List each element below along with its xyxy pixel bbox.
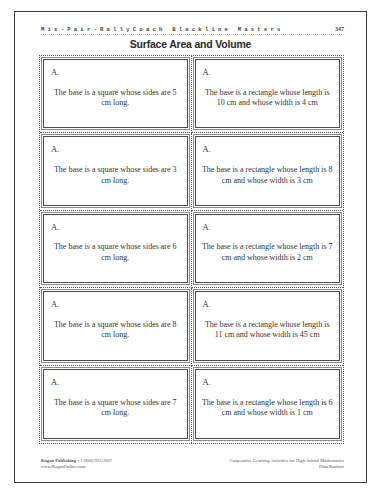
publisher-website: www.KaganOnline.com — [41, 464, 112, 470]
page-title: Surface Area and Volume — [15, 38, 366, 50]
header-divider — [41, 34, 344, 35]
card: A. The base is a square whose sides are … — [43, 136, 188, 205]
card-text: The base is a rectangle whose length is … — [202, 397, 334, 418]
card: A. The base is a rectangle whose length … — [195, 59, 341, 128]
card-cell: A. The base is a square whose sides are … — [40, 56, 192, 133]
card-text: The base is a square whose sides are 7 c… — [50, 397, 181, 418]
card-cell: A. The base is a rectangle whose length … — [192, 288, 344, 365]
card-text: The base is a square whose sides are 3 c… — [50, 165, 181, 186]
card-text: The base is a square whose sides are 5 c… — [50, 87, 181, 108]
card-cell: A. The base is a rectangle whose length … — [192, 211, 344, 288]
card: A. The base is a rectangle whose length … — [195, 214, 341, 283]
running-header: Mix-Pair-RallyCoach Blackline Masters 34… — [41, 26, 344, 38]
card: A. The base is a rectangle whose length … — [195, 291, 341, 360]
card-label: A. — [51, 222, 59, 232]
card-label: A. — [51, 299, 59, 309]
card: A. The base is a square whose sides are … — [43, 291, 188, 360]
card-label: A. — [51, 144, 59, 154]
card-label: A. — [203, 144, 211, 154]
card: A. The base is a rectangle whose length … — [195, 369, 341, 439]
publisher-phone: • 1 (800) 933-2667 — [76, 458, 112, 463]
card: A. The base is a square whose sides are … — [43, 369, 188, 439]
card-text: The base is a square whose sides are 8 c… — [50, 320, 181, 341]
card-cell: A. The base is a rectangle whose length … — [192, 366, 344, 443]
card: A. The base is a square whose sides are … — [43, 59, 188, 128]
card-label: A. — [203, 377, 211, 387]
card-label: A. — [203, 222, 211, 232]
card-label: A. — [51, 67, 59, 77]
card: A. The base is a square whose sides are … — [43, 214, 188, 283]
series-title: Mix-Pair-RallyCoach Blackline Masters — [41, 26, 284, 33]
card-text: The base is a square whose sides are 6 c… — [50, 242, 181, 263]
card-cell: A. The base is a square whose sides are … — [40, 211, 192, 288]
card-cell: A. The base is a square whose sides are … — [40, 366, 192, 443]
page-number: 347 — [335, 26, 344, 32]
publisher-name: Kagan Publishing — [41, 458, 76, 463]
card-text: The base is a rectangle whose length is … — [202, 320, 334, 341]
footer-book-info: Cooperative Learning Activities for High… — [229, 458, 344, 470]
footer-publisher-info: Kagan Publishing • 1 (800) 933-2667 www.… — [41, 458, 112, 470]
card-text: The base is a rectangle whose length is … — [202, 87, 334, 108]
card: A. The base is a rectangle whose length … — [195, 136, 341, 205]
card-label: A. — [203, 299, 211, 309]
book-author: Dina Kushnir — [229, 464, 344, 470]
card-cell: A. The base is a rectangle whose length … — [192, 56, 344, 133]
card-text: The base is a rectangle whose length is … — [202, 242, 334, 263]
card-cell: A. The base is a square whose sides are … — [40, 133, 192, 210]
card-label: A. — [203, 67, 211, 77]
card-grid: A. The base is a square whose sides are … — [39, 55, 344, 444]
card-cell: A. The base is a rectangle whose length … — [192, 133, 344, 210]
card-text: The base is a rectangle whose length is … — [202, 165, 334, 186]
card-label: A. — [51, 377, 59, 387]
card-cell: A. The base is a square whose sides are … — [40, 288, 192, 365]
worksheet-page: Mix-Pair-RallyCoach Blackline Masters 34… — [14, 11, 367, 483]
